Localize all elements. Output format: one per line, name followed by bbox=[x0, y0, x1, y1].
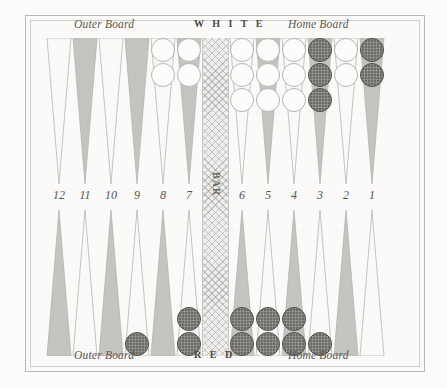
point-top-9[interactable] bbox=[124, 38, 150, 186]
checker-white-top-2-2[interactable] bbox=[334, 63, 358, 87]
top-outer-board-label: Outer Board bbox=[74, 18, 134, 30]
quadrant-bottom-left-outer bbox=[46, 208, 202, 356]
point-bottom-10[interactable] bbox=[98, 208, 124, 356]
point-triangle-bottom-2 bbox=[333, 208, 359, 356]
point-number-1-right: 1 bbox=[360, 188, 384, 203]
point-triangle-top-11 bbox=[72, 38, 98, 186]
point-triangle-bottom-11 bbox=[72, 208, 98, 356]
point-top-4[interactable] bbox=[281, 38, 307, 186]
checker-white-top-7-1[interactable] bbox=[177, 38, 201, 62]
point-number-7-left: 7 bbox=[177, 188, 201, 203]
point-top-2[interactable] bbox=[333, 38, 359, 186]
point-triangle-bottom-8 bbox=[150, 208, 176, 356]
checker-red-bottom-6-2[interactable] bbox=[230, 307, 254, 331]
point-triangle-bottom-1 bbox=[359, 208, 385, 356]
bottom-label-row: Outer Board R E D Home Board bbox=[46, 349, 414, 365]
point-bottom-4[interactable] bbox=[281, 208, 307, 356]
point-number-10-left: 10 bbox=[99, 188, 123, 203]
point-top-5[interactable] bbox=[255, 38, 281, 186]
point-top-8[interactable] bbox=[150, 38, 176, 186]
checker-white-top-6-1[interactable] bbox=[230, 38, 254, 62]
point-number-8-left: 8 bbox=[151, 188, 175, 203]
point-bottom-9[interactable] bbox=[124, 208, 150, 356]
point-triangle-top-10 bbox=[98, 38, 124, 186]
point-triangle-top-12 bbox=[46, 38, 72, 186]
point-top-10[interactable] bbox=[98, 38, 124, 186]
point-number-12-left: 12 bbox=[47, 188, 71, 203]
checker-red-bottom-7-2[interactable] bbox=[177, 307, 201, 331]
point-top-12[interactable] bbox=[46, 38, 72, 186]
point-number-6-right: 6 bbox=[230, 188, 254, 203]
point-bottom-7[interactable] bbox=[176, 208, 202, 356]
checker-red-top-3-1[interactable] bbox=[308, 38, 332, 62]
checker-white-top-4-1[interactable] bbox=[282, 38, 306, 62]
point-bottom-6[interactable] bbox=[229, 208, 255, 356]
point-triangle-top-9 bbox=[124, 38, 150, 186]
point-number-row: 121110987654321 bbox=[46, 188, 414, 206]
point-number-2-right: 2 bbox=[334, 188, 358, 203]
checker-white-top-2-1[interactable] bbox=[334, 38, 358, 62]
point-bottom-8[interactable] bbox=[150, 208, 176, 356]
checker-red-bottom-5-2[interactable] bbox=[256, 307, 280, 331]
point-bottom-1[interactable] bbox=[359, 208, 385, 356]
point-number-4-right: 4 bbox=[282, 188, 306, 203]
checker-red-top-3-3[interactable] bbox=[308, 88, 332, 112]
quadrant-bottom-right-home bbox=[229, 208, 385, 356]
checker-white-top-8-2[interactable] bbox=[151, 63, 175, 87]
top-label-row: Outer Board W H I T E Home Board bbox=[46, 18, 414, 34]
checker-red-top-1-1[interactable] bbox=[360, 38, 384, 62]
checker-white-top-6-2[interactable] bbox=[230, 63, 254, 87]
point-bottom-5[interactable] bbox=[255, 208, 281, 356]
bottom-home-board-label: Home Board bbox=[288, 349, 349, 361]
checker-white-top-5-1[interactable] bbox=[256, 38, 280, 62]
point-number-11-left: 11 bbox=[73, 188, 97, 203]
bottom-outer-board-label: Outer Board bbox=[74, 349, 134, 361]
checker-white-top-5-3[interactable] bbox=[256, 88, 280, 112]
checker-red-top-3-2[interactable] bbox=[308, 63, 332, 87]
point-bottom-11[interactable] bbox=[72, 208, 98, 356]
point-number-3-right: 3 bbox=[308, 188, 332, 203]
point-bottom-3[interactable] bbox=[307, 208, 333, 356]
quadrant-top-left-outer bbox=[46, 38, 202, 186]
quadrant-top-right-home bbox=[229, 38, 385, 186]
checker-red-top-1-2[interactable] bbox=[360, 63, 384, 87]
checker-white-top-7-2[interactable] bbox=[177, 63, 201, 87]
checker-white-top-6-3[interactable] bbox=[230, 88, 254, 112]
point-number-5-right: 5 bbox=[256, 188, 280, 203]
point-top-6[interactable] bbox=[229, 38, 255, 186]
checker-white-top-4-2[interactable] bbox=[282, 63, 306, 87]
point-top-7[interactable] bbox=[176, 38, 202, 186]
point-triangle-bottom-12 bbox=[46, 208, 72, 356]
checker-white-top-8-1[interactable] bbox=[151, 38, 175, 62]
point-top-11[interactable] bbox=[72, 38, 98, 186]
top-home-board-label: Home Board bbox=[288, 18, 349, 30]
checker-white-top-4-3[interactable] bbox=[282, 88, 306, 112]
bottom-player-label-red: R E D bbox=[194, 349, 235, 360]
point-bottom-12[interactable] bbox=[46, 208, 72, 356]
top-player-label-white: W H I T E bbox=[194, 18, 265, 29]
point-top-3[interactable] bbox=[307, 38, 333, 186]
point-triangle-bottom-10 bbox=[98, 208, 124, 356]
checker-white-top-5-2[interactable] bbox=[256, 63, 280, 87]
point-number-9-left: 9 bbox=[125, 188, 149, 203]
backgammon-board-page: Outer Board W H I T E Home Board BAR 121… bbox=[0, 0, 447, 388]
point-top-1[interactable] bbox=[359, 38, 385, 186]
point-bottom-2[interactable] bbox=[333, 208, 359, 356]
checker-red-bottom-4-2[interactable] bbox=[282, 307, 306, 331]
